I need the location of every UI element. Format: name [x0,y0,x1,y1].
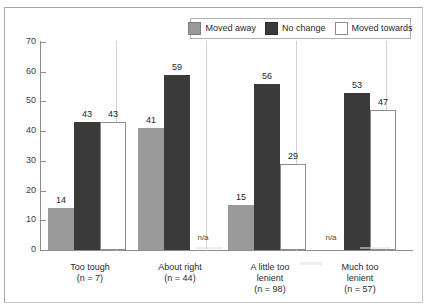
bar[interactable] [280,164,306,250]
category-label-line: (n = 44) [132,273,228,284]
category-label-line: About right [132,262,228,273]
category-label-line: Too tough [42,262,138,273]
scan-fleck [360,247,390,249]
category-label-line: (n = 57) [312,284,408,295]
bar[interactable] [74,122,100,250]
bar-value-label: 41 [136,116,166,125]
category-label: A little toolenient(n = 98) [222,262,318,295]
bar-value-label: 47 [368,98,398,107]
plot-area: 010203040506070 Moved away No change Mov… [0,0,428,308]
bars-layer: 1443434159n/a155629n/a5347 [0,0,428,251]
bar-value-label: 14 [46,196,76,205]
category-label: Much toolenient(n = 57) [312,262,408,295]
category-label: About right(n = 44) [132,262,228,284]
bar[interactable] [370,110,396,250]
bar[interactable] [228,205,254,250]
bar[interactable] [164,75,190,250]
category-label-line: (n = 98) [222,284,318,295]
bar-value-label: 43 [98,110,128,119]
category-label-line: Much too [312,262,408,273]
bar[interactable] [138,128,164,250]
bar[interactable] [48,208,74,250]
bar[interactable] [344,93,370,250]
category-label-line: lenient [222,273,318,284]
bar-value-label: 53 [342,81,372,90]
bar-value-label: 59 [162,63,192,72]
bar-na-label: n/a [316,234,346,242]
bar-value-label: 56 [252,72,282,81]
category-label-line: lenient [312,273,408,284]
bar-value-label: 29 [278,152,308,161]
scan-fleck [196,247,222,249]
bar-na-label: n/a [188,234,218,242]
category-label: Too tough(n = 7) [42,262,138,284]
scan-fleck [300,262,322,265]
bar[interactable] [100,122,126,250]
category-label-line: (n = 7) [42,273,138,284]
bar[interactable] [254,84,280,250]
chart-page: 010203040506070 Moved away No change Mov… [0,0,428,308]
bar-value-label: 15 [226,193,256,202]
